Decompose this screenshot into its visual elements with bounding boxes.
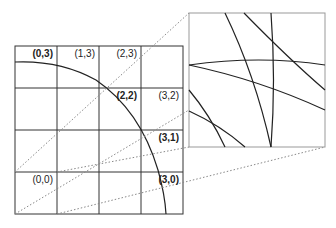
inset-magnified-view	[189, 13, 325, 147]
cell-label: (3,1)	[141, 132, 179, 144]
cell-label: (1,3)	[57, 48, 95, 60]
cell-label: (2,3)	[99, 48, 137, 60]
grid	[15, 46, 183, 214]
cell-label: (0,0)	[15, 174, 53, 186]
cell-label: (0,3)	[15, 48, 53, 60]
cell-label: (2,2)	[99, 90, 137, 102]
diagram-canvas	[0, 0, 336, 228]
cell-label: (3,0)	[141, 174, 179, 186]
cell-label: (3,2)	[141, 90, 179, 102]
